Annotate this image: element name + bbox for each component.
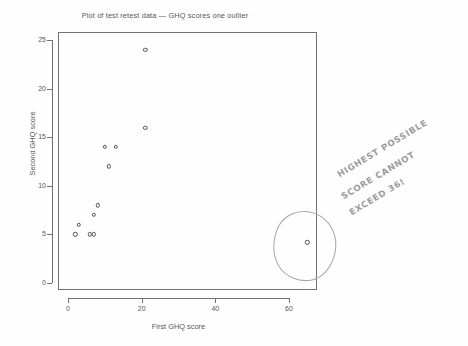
chart-title: Plot of test retest data — GHQ scores on…: [0, 11, 330, 20]
y-tick-mark: [47, 234, 52, 235]
x-tick-label: 20: [130, 305, 154, 312]
handwritten-note-line-1: HIGHEST POSSIBLE: [335, 117, 429, 179]
y-tick-mark: [47, 40, 52, 41]
x-tick-label: 40: [203, 305, 227, 312]
y-tick-mark: [47, 89, 52, 90]
x-tick-label: 60: [277, 305, 301, 312]
y-tick-label: 25: [24, 36, 46, 43]
x-tick-mark: [289, 298, 290, 303]
handwritten-note-line-2: SCORE CANNOT: [339, 149, 416, 201]
x-axis-title: First GHQ score: [68, 322, 289, 331]
y-tick-label: 5: [24, 230, 46, 237]
plot-frame: [58, 32, 317, 290]
x-tick-mark: [215, 298, 216, 303]
x-tick-mark: [142, 298, 143, 303]
y-tick-mark: [47, 137, 52, 138]
y-tick-label: 0: [24, 279, 46, 286]
x-axis-line: [68, 298, 289, 299]
y-axis-line: [52, 40, 53, 283]
x-tick-label: 0: [56, 305, 80, 312]
scatter-plot-screenshot: Plot of test retest data — GHQ scores on…: [0, 0, 468, 346]
y-tick-mark: [47, 186, 52, 187]
y-axis-title: Second GHQ score: [28, 84, 37, 204]
handwritten-note-line-3: EXCEED 36!: [347, 176, 406, 217]
handwritten-note: HIGHEST POSSIBLE SCORE CANNOT EXCEED 36!: [336, 104, 468, 212]
y-tick-mark: [47, 283, 52, 284]
x-tick-mark: [68, 298, 69, 303]
